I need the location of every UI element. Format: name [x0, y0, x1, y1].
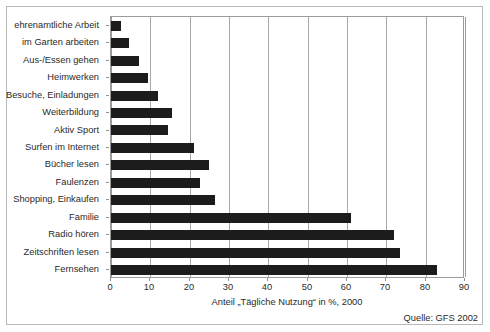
- gridline: [465, 17, 466, 277]
- x-tick-label: 0: [90, 281, 130, 293]
- category-label: Weiterbildung: [0, 107, 99, 117]
- x-tick-label: 60: [326, 281, 366, 293]
- category-tick: [106, 147, 109, 148]
- x-tick-label: 20: [169, 281, 209, 293]
- category-label: Shopping, Einkaufen: [0, 194, 99, 204]
- bar-row: [111, 245, 465, 261]
- category-tick: [106, 164, 109, 165]
- category-label: Zeitschriften lesen: [0, 247, 99, 257]
- category-label: Radio hören: [0, 229, 99, 239]
- bar: [111, 143, 194, 153]
- category-label: im Garten arbeiten: [0, 37, 99, 47]
- x-tick-label: 80: [405, 281, 445, 293]
- category-tick: [106, 25, 109, 26]
- category-tick: [106, 199, 109, 200]
- bar: [111, 265, 437, 275]
- bar-row: [111, 140, 465, 156]
- category-label: Aktiv Sport: [0, 125, 99, 135]
- category-tick: [106, 182, 109, 183]
- bar: [111, 21, 121, 31]
- category-label: Faulenzen: [0, 177, 99, 187]
- bar: [111, 56, 139, 66]
- bars-layer: [111, 17, 463, 277]
- category-tick: [106, 60, 109, 61]
- category-label: Besuche, Einladungen: [0, 90, 99, 100]
- category-tick: [106, 95, 109, 96]
- bar-row: [111, 70, 465, 86]
- category-tick: [106, 234, 109, 235]
- category-tick: [106, 77, 109, 78]
- x-tick-label: 90: [444, 281, 484, 293]
- bar-row: [111, 35, 465, 51]
- bar-row: [111, 175, 465, 191]
- plot-area: [110, 16, 464, 278]
- bar: [111, 195, 215, 205]
- chart-figure: ehrenamtliche Arbeitim Garten arbeitenAu…: [0, 0, 490, 332]
- bar: [111, 160, 209, 170]
- bar-row: [111, 262, 465, 278]
- x-tick-label: 50: [287, 281, 327, 293]
- bar: [111, 178, 200, 188]
- bar: [111, 91, 158, 101]
- category-label: Aus-/Essen gehen: [0, 55, 99, 65]
- x-axis-title: Anteil „Tägliche Nutzung“ in %, 2000: [110, 297, 464, 307]
- category-label: Surfen im Internet: [0, 142, 99, 152]
- source-note: Quelle: GFS 2002: [404, 313, 478, 323]
- category-tick: [106, 269, 109, 270]
- category-tick: [106, 217, 109, 218]
- category-label: ehrenamtliche Arbeit: [0, 20, 99, 30]
- bar: [111, 73, 148, 83]
- bar-row: [111, 122, 465, 138]
- bar-row: [111, 210, 465, 226]
- bar: [111, 108, 172, 118]
- category-label: Familie: [0, 212, 99, 222]
- bar: [111, 213, 351, 223]
- bar-row: [111, 88, 465, 104]
- category-label: Heimwerken: [0, 72, 99, 82]
- bar-row: [111, 157, 465, 173]
- bar-row: [111, 105, 465, 121]
- bar-row: [111, 227, 465, 243]
- bar-row: [111, 53, 465, 69]
- category-label: Fernsehen: [0, 264, 99, 274]
- category-axis-labels: ehrenamtliche Arbeitim Garten arbeitenAu…: [0, 16, 106, 278]
- category-tick: [106, 130, 109, 131]
- category-tick: [106, 42, 109, 43]
- category-label: Bücher lesen: [0, 159, 99, 169]
- bar: [111, 125, 168, 135]
- x-tick-label: 30: [208, 281, 248, 293]
- x-axis-tick-labels: 0102030405060708090: [0, 281, 490, 295]
- bar-row: [111, 18, 465, 34]
- x-tick-label: 70: [365, 281, 405, 293]
- bar: [111, 248, 400, 258]
- x-tick-label: 40: [247, 281, 287, 293]
- category-tick: [106, 112, 109, 113]
- bar-row: [111, 192, 465, 208]
- bar: [111, 38, 129, 48]
- bar: [111, 230, 394, 240]
- x-tick-label: 10: [129, 281, 169, 293]
- category-tick: [106, 252, 109, 253]
